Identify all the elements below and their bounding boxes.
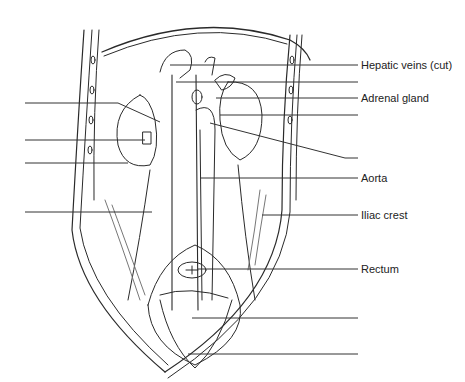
muscle-fibers-right	[248, 190, 266, 270]
kidney-right	[220, 82, 262, 160]
label-hepatic-veins: Hepatic veins (cut)	[361, 59, 452, 71]
hepatic-vein-left	[160, 50, 192, 78]
label-aorta: Aorta	[361, 172, 387, 184]
label-adrenal-gland: Adrenal gland	[361, 92, 429, 104]
drawing	[72, 28, 310, 379]
anatomy-diagram	[0, 0, 465, 382]
rectum-lumen	[186, 266, 198, 274]
muscle-fibers-left	[105, 200, 145, 300]
right-wall-outer	[165, 35, 290, 372]
bladder-top	[160, 291, 228, 298]
right-wall-strip	[296, 35, 302, 200]
label-iliac-crest: Iliac crest	[361, 209, 407, 221]
inferior-vena-cava	[172, 75, 198, 310]
psoas-right	[238, 165, 255, 300]
diaphragm-inner	[104, 32, 287, 56]
vessel-lumen	[192, 90, 202, 104]
pelvic-cavity	[148, 245, 240, 365]
label-rectum: Rectum	[361, 263, 399, 275]
hepatic-vein-right	[205, 57, 215, 75]
left-wall-inner	[80, 30, 168, 365]
right-wall-inner	[168, 35, 297, 378]
psoas-left	[128, 170, 150, 300]
left-wall-strip	[94, 30, 99, 200]
renal-hilum-left	[143, 132, 151, 144]
